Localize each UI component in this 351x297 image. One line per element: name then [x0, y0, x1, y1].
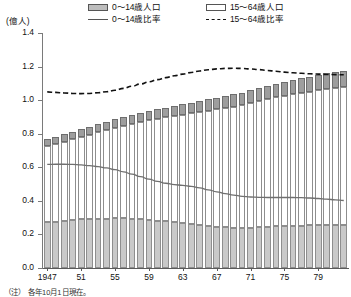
x-axis-tick-label: 55: [100, 272, 130, 282]
x-axis-tick: [183, 268, 184, 271]
empty-box-swatch-icon: [206, 4, 226, 11]
y-axis-tick-label: 0.0: [8, 262, 34, 272]
y-axis-tick-label: 1.0: [8, 94, 34, 104]
y-axis-unit-label: (億人): [6, 14, 30, 26]
x-axis-tick-label: 71: [236, 272, 266, 282]
x-axis-tick: [81, 268, 82, 271]
x-axis-tick: [284, 268, 285, 271]
legend-item-15-64-ratio: 15〜64歳比率: [206, 14, 283, 24]
y-axis-tick: [38, 268, 43, 269]
chart-legend: 0〜14歳人口 15〜64歳人口 0〜14歳比率 15〜64歳比率: [88, 1, 350, 27]
y-axis-tick-label: 0.6: [8, 161, 34, 171]
x-axis-tick: [115, 268, 116, 271]
x-axis-tick-label: 67: [202, 272, 232, 282]
x-axis-tick: [251, 268, 252, 271]
legend-label: 15〜64歳比率: [230, 14, 283, 24]
dashed-line-swatch-icon: [206, 16, 226, 23]
x-axis-tick-label: 1947: [32, 272, 62, 282]
line-0-14-ratio: [47, 164, 344, 200]
x-axis-tick: [318, 268, 319, 271]
legend-item-0-14-population: 0〜14歳人口: [88, 2, 161, 12]
y-axis-tick-label: 1.2: [8, 61, 34, 71]
filled-box-swatch-icon: [88, 4, 108, 11]
x-axis-line: [42, 268, 349, 269]
line-15-64-ratio: [47, 68, 344, 93]
x-axis-tick-label: 51: [66, 272, 96, 282]
legend-label: 0〜14歳人口: [112, 2, 161, 12]
x-axis-tick-label: 75: [269, 272, 299, 282]
chart-note: （注） 各年10月1日現在。: [4, 286, 344, 297]
line-series-overlay: [43, 33, 348, 268]
legend-item-0-14-ratio: 0〜14歳比率: [88, 14, 161, 24]
x-axis-tick: [149, 268, 150, 271]
y-axis-tick-label: 0.8: [8, 128, 34, 138]
x-axis-tick: [47, 268, 48, 271]
y-axis-tick-label: 1.4: [8, 27, 34, 37]
solid-line-swatch-icon: [88, 16, 108, 23]
y-axis-tick-label: 0.4: [8, 195, 34, 205]
x-axis-tick-label: 79: [303, 272, 333, 282]
legend-label: 15〜64歳人口: [230, 2, 283, 12]
plot-area: [43, 33, 348, 268]
x-axis-tick-label: 63: [168, 272, 198, 282]
legend-item-15-64-population: 15〜64歳人口: [206, 2, 283, 12]
x-axis-tick-label: 59: [134, 272, 164, 282]
x-axis-tick: [217, 268, 218, 271]
y-axis-tick-label: 0.2: [8, 228, 34, 238]
legend-label: 0〜14歳比率: [112, 14, 161, 24]
